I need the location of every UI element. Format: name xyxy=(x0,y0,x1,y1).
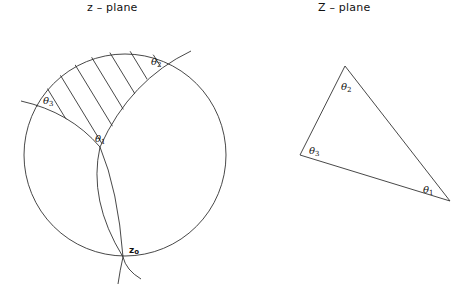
arc-a xyxy=(21,101,141,279)
arc-b xyxy=(97,51,191,284)
z0-label: zo xyxy=(129,245,139,256)
unit-circle xyxy=(24,54,226,256)
Z-plane-title: Z – plane xyxy=(318,1,370,14)
conformal-mapping-figure: z – plane Z – plane xyxy=(0,0,473,296)
z-theta3-label: θ3 xyxy=(43,95,54,108)
z-theta2-label: θ2 xyxy=(151,56,162,69)
z-theta1-label: θ1 xyxy=(95,133,106,146)
diagram-canvas: θ1 θ2 θ3 zo θ2 θ3 θ1 xyxy=(0,0,473,296)
Z-theta2-label: θ2 xyxy=(341,81,352,94)
z-plane-title: z – plane xyxy=(87,1,138,14)
image-triangle xyxy=(300,66,450,201)
Z-theta1-label: θ1 xyxy=(423,184,434,197)
z-plane-diagram: θ1 θ2 θ3 zo xyxy=(15,0,226,284)
hatched-region xyxy=(15,0,205,185)
Z-theta3-label: θ3 xyxy=(309,145,320,158)
Z-plane-diagram: θ2 θ3 θ1 xyxy=(300,66,450,201)
